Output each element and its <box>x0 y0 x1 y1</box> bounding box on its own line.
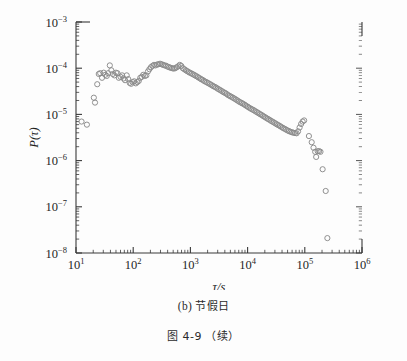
x-tick-label: 104 <box>239 256 257 272</box>
subfigure-caption: (b) 节假日 <box>0 297 407 313</box>
y-tick-label: 10−6 <box>45 152 67 168</box>
y-axis-title: P(τ) <box>27 127 41 148</box>
data-point <box>306 133 311 138</box>
data-point <box>84 122 89 127</box>
figure-caption: 图 4-9 （续） <box>0 327 407 343</box>
y-tick-label: 10−4 <box>45 60 67 76</box>
x-axis-title: τ/s <box>213 280 226 290</box>
data-point <box>95 82 100 87</box>
data-point <box>302 118 307 123</box>
data-point <box>309 140 314 145</box>
y-tick-label: 10−7 <box>45 198 67 214</box>
x-tick-label: 101 <box>68 256 85 272</box>
y-tick-label: 10−3 <box>45 14 67 30</box>
chart-figure: 10110210310410510610−810−710−610−510−410… <box>0 0 407 290</box>
subfigure-label: (b) <box>178 300 192 312</box>
x-tick-label: 102 <box>125 256 142 272</box>
y-tick-label: 10−5 <box>45 106 67 122</box>
x-tick-label: 105 <box>296 256 313 272</box>
y-tick-label: 10−8 <box>45 245 67 261</box>
subfigure-text: 节假日 <box>195 300 229 313</box>
data-point <box>79 119 84 124</box>
data-point <box>107 63 112 68</box>
figure-page: 10110210310410510610−810−710−610−510−410… <box>0 0 407 361</box>
x-tick-label: 103 <box>182 256 199 272</box>
data-point <box>314 154 319 159</box>
data-point <box>323 188 328 193</box>
data-point <box>91 95 96 100</box>
x-tick-label: 106 <box>354 256 371 272</box>
data-point <box>92 100 97 105</box>
chart-canvas: 10110210310410510610−810−710−610−510−410… <box>0 0 407 290</box>
data-point <box>325 236 330 241</box>
figure-note: （续） <box>205 330 240 343</box>
figure-number: 图 4-9 <box>167 330 202 343</box>
data-point <box>320 167 325 172</box>
